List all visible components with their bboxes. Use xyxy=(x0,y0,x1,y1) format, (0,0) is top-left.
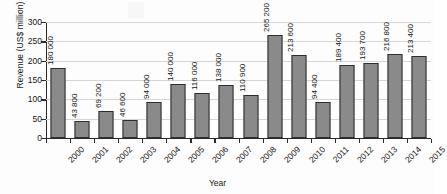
x-axis-tick-label: 2011 xyxy=(331,145,350,164)
bar-value-label: 110 900 xyxy=(239,64,247,92)
bar[interactable] xyxy=(243,95,258,138)
x-axis-title: Year xyxy=(0,178,435,188)
bar-group: 94 400 xyxy=(311,22,335,138)
bar[interactable] xyxy=(363,63,378,138)
y-axis-tick-label: 150 xyxy=(16,76,42,85)
bar[interactable] xyxy=(99,111,114,138)
y-axis-tick-mark xyxy=(41,99,46,100)
bar-value-label: 69 200 xyxy=(95,84,103,108)
bar[interactable] xyxy=(75,121,90,138)
bar-group: 265 200 xyxy=(263,22,287,138)
bar[interactable] xyxy=(291,55,306,138)
x-axis-tick-label: 2005 xyxy=(187,145,206,164)
bar-group: 193 700 xyxy=(359,22,383,138)
bar-group: 213 400 xyxy=(407,22,431,138)
x-axis-tick-label: 2006 xyxy=(211,145,230,164)
bar-group: 46 600 xyxy=(118,22,142,138)
x-axis-tick-label: 2003 xyxy=(139,145,158,164)
y-axis-tick-label: 0 xyxy=(16,134,42,143)
x-axis-tick-mark xyxy=(70,139,71,143)
bar-value-label: 140 000 xyxy=(167,52,175,81)
bar-value-label: 116 000 xyxy=(191,62,199,90)
x-axis-tick-mark xyxy=(335,139,336,143)
bar-group: 189 400 xyxy=(335,22,359,138)
x-axis-tick-mark xyxy=(287,139,288,143)
x-axis-tick-mark xyxy=(94,139,95,143)
x-axis-tick-mark xyxy=(166,139,167,143)
bar[interactable] xyxy=(171,84,186,138)
x-axis-tick-mark xyxy=(190,139,191,143)
bar-value-label: 213 400 xyxy=(407,24,415,53)
bar[interactable] xyxy=(339,65,354,138)
bar-group: 94 000 xyxy=(142,22,166,138)
bar-group: 43 800 xyxy=(70,22,94,138)
x-axis-tick-label: 2001 xyxy=(91,145,110,164)
y-axis-tick-label: 100 xyxy=(16,95,42,104)
bar-value-label: 213 600 xyxy=(287,24,295,53)
bar[interactable] xyxy=(51,68,66,138)
bar-group: 116 000 xyxy=(190,22,214,138)
bar[interactable] xyxy=(411,56,426,139)
x-axis-tick-label: 2012 xyxy=(355,145,374,164)
x-axis-tick-label: 2009 xyxy=(283,145,302,164)
y-axis-tick-mark xyxy=(41,80,46,81)
x-axis-tick-label: 2013 xyxy=(379,145,398,164)
bar[interactable] xyxy=(195,93,210,138)
bar-value-label: 138 000 xyxy=(215,53,223,82)
bar-group: 110 900 xyxy=(239,22,263,138)
x-axis-tick-mark xyxy=(263,139,264,143)
x-axis-tick-mark xyxy=(239,139,240,143)
x-axis-tick-label: 2002 xyxy=(115,145,134,164)
x-axis-tick-mark xyxy=(311,139,312,143)
bar-group: 69 200 xyxy=(94,22,118,138)
x-axis-tick-label: 2010 xyxy=(307,145,326,164)
bar[interactable] xyxy=(267,35,282,138)
y-axis-tick-labels: 050100150200250300 xyxy=(16,22,42,138)
y-axis-tick-label: 300 xyxy=(16,18,42,27)
x-axis-tick-mark xyxy=(431,139,432,143)
bar-value-label: 94 000 xyxy=(143,74,151,98)
x-axis-tick-label: 2007 xyxy=(235,145,254,164)
bar-value-label: 43 800 xyxy=(71,94,79,118)
plot-area: 180 00043 80069 20046 60094 000140 00011… xyxy=(46,22,431,138)
x-axis-tick-mark xyxy=(214,139,215,143)
bar-value-label: 46 600 xyxy=(119,93,127,117)
y-axis-tick-mark xyxy=(41,119,46,120)
x-axis-tick-mark xyxy=(383,139,384,143)
bars-container: 180 00043 80069 20046 60094 000140 00011… xyxy=(46,22,431,138)
y-axis-tick-mark xyxy=(41,41,46,42)
x-axis-tick-mark xyxy=(46,139,47,143)
bar-value-label: 180 000 xyxy=(47,36,55,65)
x-axis-tick-mark xyxy=(142,139,143,143)
bar[interactable] xyxy=(123,120,138,138)
bar[interactable] xyxy=(147,102,162,138)
bar-group: 213 600 xyxy=(287,22,311,138)
y-axis-tick-mark xyxy=(41,22,46,23)
bar-value-label: 189 400 xyxy=(335,33,343,62)
x-axis-tick-label: 2004 xyxy=(163,145,182,164)
bar-value-label: 94 400 xyxy=(311,74,319,98)
bar[interactable] xyxy=(387,54,402,138)
bar-value-label: 193 700 xyxy=(359,31,367,60)
bar-group: 216 800 xyxy=(383,22,407,138)
x-axis-tick-mark xyxy=(359,139,360,143)
x-axis-tick-mark xyxy=(407,139,408,143)
bar-value-label: 216 800 xyxy=(383,22,391,51)
x-axis-tick-label: 2008 xyxy=(259,145,278,164)
bar-group: 140 000 xyxy=(166,22,190,138)
bar-group: 138 000 xyxy=(214,22,238,138)
bar-value-label: 265 200 xyxy=(263,4,271,33)
bar[interactable] xyxy=(219,85,234,138)
x-axis-tick-label: 2015 xyxy=(427,145,446,164)
x-axis-tick-label: 2000 xyxy=(66,145,85,164)
y-axis-tick-label: 250 xyxy=(16,37,42,46)
y-axis-tick-label: 200 xyxy=(16,56,42,65)
y-axis-tick-label: 50 xyxy=(16,114,42,123)
x-axis-tick-mark xyxy=(118,139,119,143)
bar[interactable] xyxy=(315,102,330,139)
x-axis-tick-label: 2014 xyxy=(403,145,422,164)
y-axis-tick-mark xyxy=(41,61,46,62)
scan-artifact xyxy=(128,2,144,18)
bar-group: 180 000 xyxy=(46,22,70,138)
